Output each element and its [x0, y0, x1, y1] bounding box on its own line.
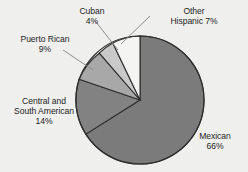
pie-label-puerto-rican: Puerto Rican 9% — [8, 34, 82, 54]
pie-label-central-and-south-american: Central and South American 14% — [2, 96, 86, 127]
pie-label-mexican: Mexican 66% — [186, 131, 244, 151]
pie-label-cuban: Cuban 4% — [62, 6, 122, 26]
pie-label-other-hispanic: Other Hispanic 7% — [152, 6, 236, 26]
pie-chart: Cuban 4% Other Hispanic 7% Puerto Rican … — [0, 0, 248, 172]
